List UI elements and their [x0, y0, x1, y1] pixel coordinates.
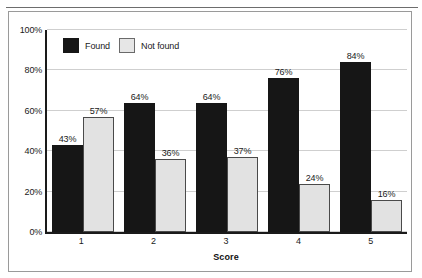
legend-label: Not found	[141, 41, 179, 51]
x-axis-tick-labels: 12345	[45, 236, 407, 246]
bar-value-label: 43%	[59, 134, 76, 144]
y-axis-tick-label: 0%	[29, 227, 42, 237]
bar-slot: 24%	[299, 30, 330, 232]
page-top-rule	[6, 7, 418, 8]
x-axis-tick-label: 5	[335, 236, 407, 246]
bar[interactable]: 57%	[83, 117, 114, 232]
bar[interactable]: 76%	[268, 78, 299, 232]
y-axis-tick-label: 40%	[25, 146, 42, 156]
bar-slot: 37%	[227, 30, 258, 232]
bar-slot: 43%	[52, 30, 83, 232]
y-axis-tick-label: 80%	[25, 65, 42, 75]
bar-value-label: 64%	[131, 92, 148, 102]
y-axis-tick-label: 100%	[20, 25, 42, 35]
plot-area: 0%20%40%60%80%100% 43%57%64%36%64%37%76%…	[45, 30, 407, 234]
x-axis-title: Score	[45, 252, 407, 262]
bar-group: 84%16%	[335, 30, 407, 232]
bar-group: 64%37%	[191, 30, 263, 232]
bar-value-label: 84%	[347, 51, 364, 61]
bar-groups: 43%57%64%36%64%37%76%24%84%16%	[47, 30, 407, 232]
x-axis-tick-label: 2	[117, 236, 189, 246]
bar[interactable]: 16%	[371, 200, 402, 232]
bar[interactable]: 43%	[52, 145, 83, 232]
chart-figure: 0%20%40%60%80%100% 43%57%64%36%64%37%76%…	[0, 0, 422, 278]
x-axis-tick-label: 3	[190, 236, 262, 246]
x-axis-tick-label: 4	[262, 236, 334, 246]
bar-value-label: 37%	[234, 146, 251, 156]
bar-value-label: 24%	[306, 173, 323, 183]
bar[interactable]: 84%	[340, 62, 371, 232]
bar[interactable]: 64%	[124, 103, 155, 232]
legend-swatch-icon	[119, 38, 135, 53]
bar-slot: 36%	[155, 30, 186, 232]
bar[interactable]: 37%	[227, 157, 258, 232]
bar-slot: 84%	[340, 30, 371, 232]
bar[interactable]: 24%	[299, 184, 330, 232]
bar-value-label: 36%	[162, 148, 179, 158]
y-axis-tick-label: 20%	[25, 187, 42, 197]
bar-value-label: 76%	[275, 67, 292, 77]
bar-group: 76%24%	[263, 30, 335, 232]
bar[interactable]: 64%	[196, 103, 227, 232]
bar-value-label: 64%	[203, 92, 220, 102]
legend-entry[interactable]: Found	[63, 38, 110, 53]
bar-value-label: 57%	[90, 106, 107, 116]
chart-legend: FoundNot found	[63, 38, 179, 53]
legend-label: Found	[85, 41, 110, 51]
bar-slot: 64%	[124, 30, 155, 232]
y-axis-tick-label: 60%	[25, 106, 42, 116]
bar-slot: 76%	[268, 30, 299, 232]
bar-group: 64%36%	[119, 30, 191, 232]
bar-value-label: 16%	[378, 189, 395, 199]
x-axis-tick-label: 1	[45, 236, 117, 246]
legend-swatch-icon	[63, 38, 79, 53]
bar-slot: 64%	[196, 30, 227, 232]
bar-slot: 57%	[83, 30, 114, 232]
bar[interactable]: 36%	[155, 159, 186, 232]
bar-group: 43%57%	[47, 30, 119, 232]
legend-entry[interactable]: Not found	[119, 38, 179, 53]
bar-slot: 16%	[371, 30, 402, 232]
